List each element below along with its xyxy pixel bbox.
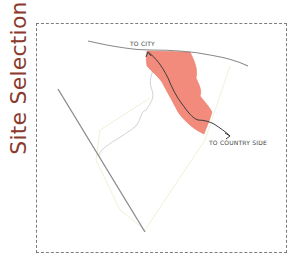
selected-site-area (146, 51, 212, 134)
site-boundary (96, 66, 230, 230)
label-to-city: TO CITY (130, 40, 155, 47)
contour-line (99, 63, 155, 158)
label-to-country-side: TO COUNTRY SIDE (209, 139, 267, 146)
main-road-left (58, 89, 145, 232)
